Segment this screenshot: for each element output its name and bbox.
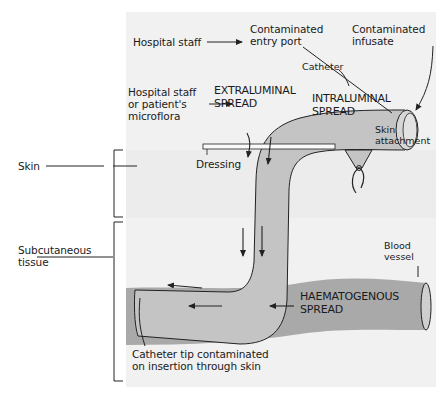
label-line: attachment [375,135,430,146]
label-line: Hospital staff [128,86,196,98]
label-line: infusate [352,35,425,47]
label-line: Contaminated [352,23,425,35]
label-contaminated-infusate: Contaminated infusate [352,23,425,47]
label-haematogenous-spread: HAEMATOGENOUS SPREAD [300,290,399,316]
label-subcutaneous-tissue: Subcutaneous tissue [18,244,91,268]
label-line: or patient's [128,98,196,110]
label-line: EXTRALUMINAL [214,84,296,97]
label-contaminated-entry-port: Contaminated entry port [250,23,323,47]
label-line: Subcutaneous [18,244,91,256]
label-line: microflora [128,110,196,122]
label-line: Blood [384,240,414,251]
label-line: Catheter tip contaminated [132,348,269,360]
label-skin: Skin [18,160,40,172]
label-line: Contaminated [250,23,323,35]
label-line: tissue [18,256,91,268]
label-line: INTRALUMINAL [312,92,391,105]
catheter-infection-diagram [0,0,447,396]
label-hospital-staff: Hospital staff [133,36,201,48]
label-extraluminal-spread: EXTRALUMINAL SPREAD [214,84,296,110]
label-line: SPREAD [300,303,399,316]
label-line: entry port [250,35,323,47]
label-catheter: Catheter [302,61,344,72]
label-dressing: Dressing [196,158,241,170]
label-hospital-staff-microflora: Hospital staff or patient's microflora [128,86,196,122]
label-catheter-tip: Catheter tip contaminated on insertion t… [132,348,269,372]
label-line: vessel [384,251,414,262]
label-line: on insertion through skin [132,360,269,372]
label-line: Skin [375,124,430,135]
label-line: HAEMATOGENOUS [300,290,399,303]
label-line: SPREAD [214,97,296,110]
label-line: SPREAD [312,105,391,118]
label-skin-attachment: Skin attachment [375,124,430,146]
label-blood-vessel: Blood vessel [384,240,414,262]
dressing [203,144,335,149]
label-intraluminal-spread: INTRALUMINAL SPREAD [312,92,391,118]
layer-brackets [114,150,123,381]
